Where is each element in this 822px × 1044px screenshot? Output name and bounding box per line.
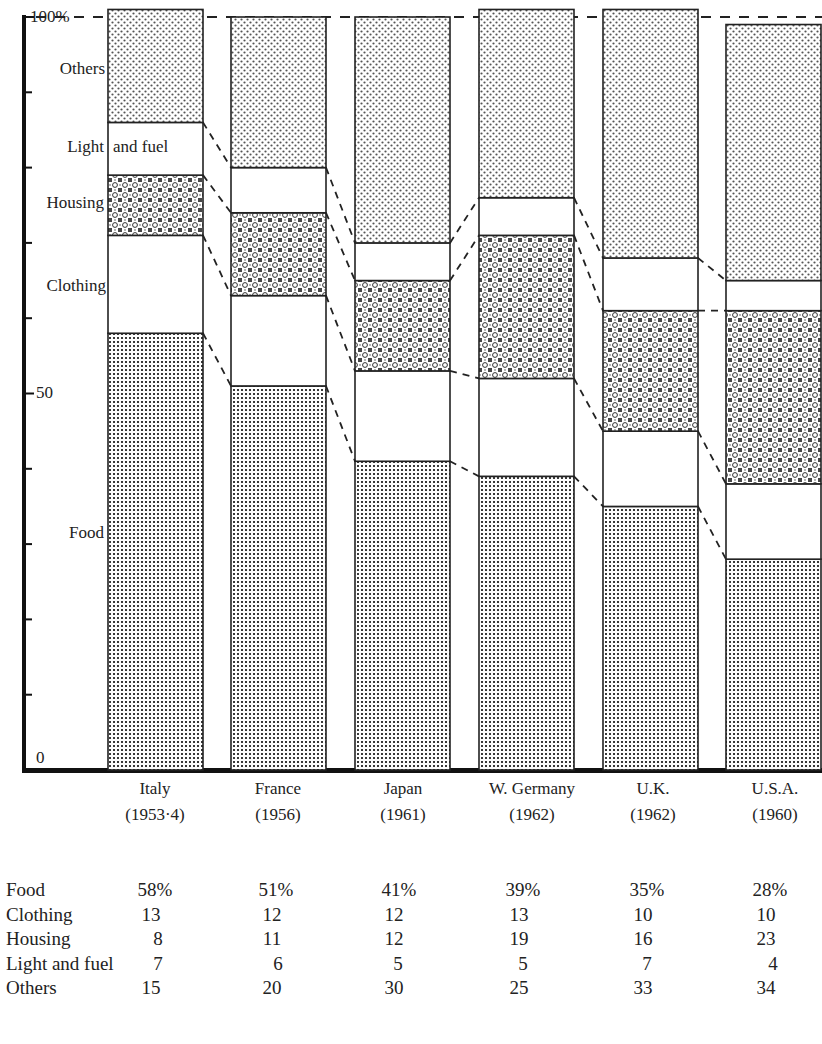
bar-segment-light-and-fuel <box>355 243 450 281</box>
dashed-connector <box>450 198 479 243</box>
y-tick <box>26 242 32 244</box>
bar-segment-housing <box>726 311 821 484</box>
cell: 5 <box>368 952 428 977</box>
dashed-connector <box>203 235 231 295</box>
row-label: Housing <box>6 927 70 952</box>
dashed-connector <box>203 333 231 386</box>
bar-segment-housing <box>231 213 326 296</box>
cell: 5 <box>493 952 553 977</box>
x-label-w-germany: W. Germany (1962) <box>462 776 602 828</box>
cell: 39% <box>493 878 553 903</box>
row-label: Food <box>6 878 45 903</box>
y-tick <box>26 91 32 93</box>
bar-segment-food <box>108 333 203 770</box>
country-year: (1960) <box>705 802 822 828</box>
bar-segment-housing <box>108 175 203 235</box>
dashed-connector <box>574 235 603 310</box>
bar-segment-others <box>726 25 821 281</box>
cell: 11 <box>242 927 302 952</box>
bars-group <box>108 9 821 770</box>
bar-segment-others <box>479 9 574 197</box>
cell: 23 <box>736 927 796 952</box>
dashed-connector <box>450 235 479 280</box>
bar-segment-clothing <box>479 378 574 476</box>
x-label-uk: U.K. (1962) <box>583 776 723 828</box>
y-tick <box>26 769 32 771</box>
dashed-connector <box>203 175 231 213</box>
row-label: Others <box>6 976 57 1001</box>
dashed-connector <box>698 258 726 281</box>
dashed-connector <box>326 296 355 371</box>
bar-segment-housing <box>479 235 574 378</box>
bar-segment-others <box>231 17 326 168</box>
y-tick <box>26 167 32 169</box>
cell: 28% <box>740 878 800 903</box>
bar-segment-food <box>479 476 574 770</box>
cell: 16 <box>613 927 673 952</box>
cell: 30 <box>364 976 424 1001</box>
bar-segment-clothing <box>231 296 326 386</box>
country-name: Japan <box>333 776 473 802</box>
country-name: France <box>208 776 348 802</box>
cell: 10 <box>613 903 673 928</box>
row-label: Light and fuel <box>6 952 114 977</box>
bar-segment-food <box>355 461 450 770</box>
bar-segment-clothing <box>726 484 821 559</box>
bar-w-germany <box>479 9 574 770</box>
legend-food: Food <box>69 523 104 542</box>
bar-segment-food <box>231 386 326 770</box>
bar-segment-food <box>726 559 821 770</box>
dashed-connector <box>574 476 603 506</box>
bar-segment-light-and-fuel <box>231 168 326 213</box>
legend-others: Others <box>60 59 105 78</box>
y-tick-label-0: 0 <box>36 748 45 767</box>
dashed-connector <box>450 461 479 476</box>
bar-segment-clothing <box>108 235 203 333</box>
dashed-connector <box>326 213 355 281</box>
y-tick <box>26 393 34 395</box>
cell: 13 <box>121 903 181 928</box>
cell: 34 <box>736 976 796 1001</box>
dashed-connector <box>326 386 355 461</box>
legend-clothing: Clothing <box>46 276 106 295</box>
country-year: (1956) <box>208 802 348 828</box>
cell: 51% <box>246 878 306 903</box>
cell: 12 <box>364 927 424 952</box>
bar-segment-clothing <box>355 371 450 461</box>
bar-segment-light-and-fuel <box>603 258 698 311</box>
bar-japan <box>355 17 450 770</box>
country-name: U.K. <box>583 776 723 802</box>
cell: 41% <box>369 878 429 903</box>
cell: 58% <box>125 878 185 903</box>
dashed-connector <box>698 431 726 484</box>
country-year: (1953·4) <box>85 802 225 828</box>
y-tick <box>26 543 32 545</box>
cell: 35% <box>617 878 677 903</box>
cell: 8 <box>128 927 188 952</box>
bar-segment-light-and-fuel <box>726 281 821 311</box>
y-tick-label-50: 50 <box>36 383 53 402</box>
country-name: U.S.A. <box>705 776 822 802</box>
dashed-connector <box>326 168 355 243</box>
country-year: (1961) <box>333 802 473 828</box>
cell: 19 <box>489 927 549 952</box>
country-name: Italy <box>85 776 225 802</box>
country-year: (1962) <box>462 802 602 828</box>
bar-france <box>231 17 326 770</box>
bar-segment-light-and-fuel <box>479 198 574 236</box>
bar-segment-housing <box>355 281 450 371</box>
cell: 7 <box>128 952 188 977</box>
bar-segment-food <box>603 506 698 770</box>
dashed-connector <box>698 506 726 559</box>
y-tick <box>26 618 32 620</box>
y-tick <box>26 694 32 696</box>
cell: 15 <box>121 976 181 1001</box>
y-tick <box>26 468 32 470</box>
cell: 6 <box>248 952 308 977</box>
bar-segment-housing <box>603 311 698 431</box>
x-label-usa: U.S.A. (1960) <box>705 776 822 828</box>
x-label-italy: Italy (1953·4) <box>85 776 225 828</box>
dashed-connector <box>574 378 603 431</box>
cell: 20 <box>242 976 302 1001</box>
legend-light: Light <box>67 137 104 156</box>
